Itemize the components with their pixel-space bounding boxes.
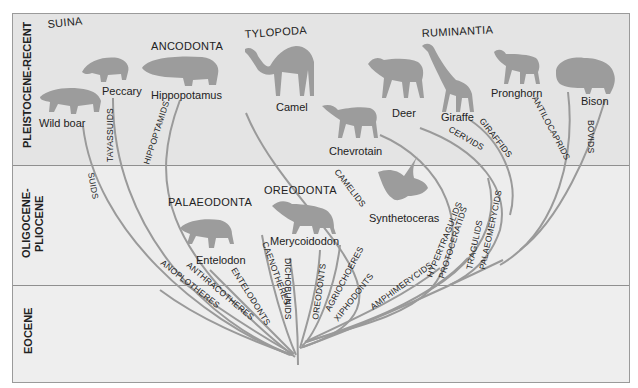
hippopotamus-icon [142, 56, 218, 86]
group-label-suina: SUINA [47, 14, 84, 30]
camel-icon [245, 46, 314, 96]
peccary-icon [82, 58, 129, 82]
family-label-giraffids: GIRAFFIDS [477, 116, 514, 159]
group-label-palaeodonta: PALAEODONTA [168, 196, 253, 208]
family-label-camelids: CAMELIDS [332, 167, 368, 209]
animal-label-hippopotamus: Hippopotamus [151, 89, 222, 101]
bison-icon [556, 58, 615, 94]
animal-label-entelodon: Entelodon [196, 254, 246, 266]
group-label-ancodonta: ANCODONTA [151, 40, 224, 52]
entelodon-icon [180, 219, 234, 248]
era-label-pleistocene-recent: PLEISTOCENE-RECENT [21, 21, 33, 148]
era-label-pliocene: PLIOCENE [33, 196, 45, 252]
era-label-oligocene: OLIGOCENE- [20, 188, 32, 258]
family-label-dichobunids: DICHOBUNIDS [283, 258, 293, 320]
group-label-tylopoda: TYLOPODA [244, 24, 307, 40]
deer-icon [368, 46, 424, 98]
phylogeny-diagram: PLEISTOCENE-RECENT OLIGOCENE- PLIOCENE E… [0, 0, 638, 388]
giraffe-icon [422, 44, 474, 112]
animal-label-peccary: Peccary [102, 85, 142, 97]
synthetoceras-icon [368, 150, 428, 200]
family-label-bovids: BOVIDS [586, 120, 596, 153]
group-label-oreodonta: OREODONTA [264, 184, 337, 196]
family-label-suids: SUIDS [86, 172, 101, 200]
group-label-ruminantia: RUMINANTIA [421, 23, 493, 39]
family-label-tayassuids: TAYASSUIDS [105, 108, 115, 162]
animal-label-camel: Camel [276, 101, 308, 113]
family-label-antilocaprids: ANTILOCAPRIDS [530, 94, 572, 162]
animal-label-wild-boar: Wild boar [39, 117, 86, 129]
animal-label-deer: Deer [392, 107, 416, 119]
animal-label-chevrotain: Chevrotain [329, 145, 382, 157]
pronghorn-icon [494, 50, 540, 84]
family-label-oreodonts: OREODONTS [310, 263, 328, 321]
silhouettes [40, 44, 615, 248]
animal-label-giraffe: Giraffe [441, 111, 474, 123]
family-label-amphimeryids: AMPHIMERYCIDS [368, 260, 434, 312]
animal-label-bison: Bison [581, 95, 609, 107]
animal-label-merycoidodon: Merycoidodon [270, 235, 339, 247]
animal-label-synthetoceras: Synthetoceras [369, 212, 440, 224]
era-label-eocene: EOCENE [22, 308, 34, 354]
wild-boar-icon [40, 88, 101, 114]
chevrotain-icon [322, 105, 378, 138]
